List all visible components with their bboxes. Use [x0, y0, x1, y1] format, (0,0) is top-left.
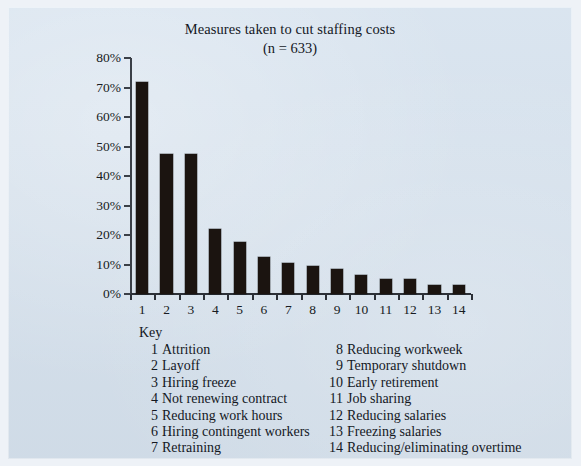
y-axis-tick [124, 87, 131, 89]
bar [258, 257, 270, 294]
key-item-number: 7 [139, 440, 158, 456]
key-item-label: Freezing salaries [347, 424, 441, 440]
x-axis-tick-label: 11 [379, 302, 392, 318]
chart-subtitle: (n = 633) [8, 39, 572, 58]
bar [355, 275, 367, 294]
key-item-number: 4 [139, 391, 158, 407]
x-axis-tick-label: 6 [261, 302, 268, 318]
x-axis-tick-label: 13 [428, 302, 442, 318]
key-item: 11Job sharing [322, 391, 559, 407]
x-axis-tick [276, 294, 278, 300]
x-axis-tick-label: 2 [163, 302, 170, 318]
key-item-label: Reducing work hours [162, 408, 283, 424]
key-item-label: Layoff [162, 358, 200, 374]
bar [185, 154, 197, 294]
key-item-number: 1 [139, 342, 158, 358]
key-item-number: 9 [322, 358, 343, 374]
x-axis-tick [301, 294, 303, 300]
key-item-label: Job sharing [347, 391, 411, 407]
y-axis-tick-label: 0% [103, 286, 121, 302]
key-item-number: 14 [322, 440, 343, 456]
x-axis-tick [179, 294, 181, 300]
x-axis-tick [447, 294, 449, 300]
key-item: 14Reducing/eliminating overtime [322, 440, 559, 456]
title-block: Measures taken to cut staffing costs (n … [8, 20, 572, 58]
bar [307, 266, 319, 294]
y-axis-tick [124, 205, 131, 207]
x-axis-tick-label: 4 [212, 302, 219, 318]
figure-container: Measures taken to cut staffing costs (n … [0, 0, 581, 466]
key-item-label: Attrition [162, 342, 210, 358]
x-axis-tick [252, 294, 254, 300]
x-axis-tick-label: 5 [236, 302, 243, 318]
x-axis-tick-label: 7 [285, 302, 292, 318]
key-item-number: 3 [139, 375, 158, 391]
x-axis-tick [325, 294, 327, 300]
y-axis-tick [124, 116, 131, 118]
key-item: 7Retraining [139, 440, 322, 456]
y-axis-tick [124, 146, 131, 148]
key-item: 13Freezing salaries [322, 424, 559, 440]
key-item-label: Temporary shutdown [347, 358, 466, 374]
key-item-label: Reducing/eliminating overtime [347, 440, 522, 456]
key-item: 1Attrition [139, 342, 322, 358]
x-axis-tick [154, 294, 156, 300]
x-axis-tick [471, 294, 473, 300]
x-axis-tick-label: 3 [188, 302, 195, 318]
key-item: 6Hiring contingent workers [139, 424, 322, 440]
x-axis-tick [374, 294, 376, 300]
key-item-label: Not renewing contract [162, 391, 287, 407]
key-item: 8Reducing workweek [322, 342, 559, 358]
y-axis-tick [124, 175, 131, 177]
x-axis-tick [203, 294, 205, 300]
key-column-right: 8Reducing workweek9Temporary shutdown10E… [322, 342, 559, 457]
key-item-number: 5 [139, 408, 158, 424]
key-column-left: 1Attrition2Layoff3Hiring freeze4Not rene… [139, 342, 322, 457]
y-axis-tick [124, 234, 131, 236]
x-axis-tick [227, 294, 229, 300]
bar [234, 242, 246, 294]
key-item-number: 6 [139, 424, 158, 440]
y-axis-tick-label: 60% [96, 109, 121, 125]
bar [404, 279, 416, 294]
key-item: 2Layoff [139, 358, 322, 374]
x-axis-tick-label: 1 [139, 302, 146, 318]
x-axis-tick [398, 294, 400, 300]
x-axis-tick-label: 10 [355, 302, 369, 318]
key-item-number: 10 [322, 375, 343, 391]
x-axis-tick-label: 9 [334, 302, 341, 318]
key-item-label: Reducing salaries [347, 408, 446, 424]
bar [282, 263, 294, 294]
key-item: 5Reducing work hours [139, 408, 322, 424]
y-axis-tick-label: 50% [96, 139, 121, 155]
key-item-label: Hiring freeze [162, 375, 236, 391]
key-item-number: 13 [322, 424, 343, 440]
bar [380, 279, 392, 294]
key-item-number: 11 [322, 391, 343, 407]
key-item: 4Not renewing contract [139, 391, 322, 407]
key-item-number: 12 [322, 408, 343, 424]
key-item-label: Reducing workweek [347, 342, 462, 358]
x-axis-tick [130, 294, 132, 300]
chart-panel: Measures taken to cut staffing costs (n … [8, 7, 572, 459]
x-axis-tick [349, 294, 351, 300]
key-item-number: 8 [322, 342, 343, 358]
key-columns: 1Attrition2Layoff3Hiring freeze4Not rene… [139, 342, 559, 457]
bar [453, 285, 465, 294]
key-item: 9Temporary shutdown [322, 358, 559, 374]
key-item-label: Early retirement [347, 375, 438, 391]
key-item-label: Retraining [162, 440, 221, 456]
bar [428, 285, 440, 294]
y-axis-tick-label: 20% [96, 227, 121, 243]
y-axis-tick-label: 10% [96, 257, 121, 273]
key-item: 10Early retirement [322, 375, 559, 391]
bar [331, 269, 343, 294]
chart-title: Measures taken to cut staffing costs [8, 20, 572, 39]
y-axis-tick-label: 40% [96, 168, 121, 184]
y-axis-tick [124, 264, 131, 266]
x-axis-tick-label: 14 [452, 302, 466, 318]
plot-area: 0%10%20%30%40%50%60%70%80% 1234567891011… [130, 58, 471, 294]
key-item-number: 2 [139, 358, 158, 374]
key-item: 12Reducing salaries [322, 408, 559, 424]
key-item-label: Hiring contingent workers [162, 424, 310, 440]
